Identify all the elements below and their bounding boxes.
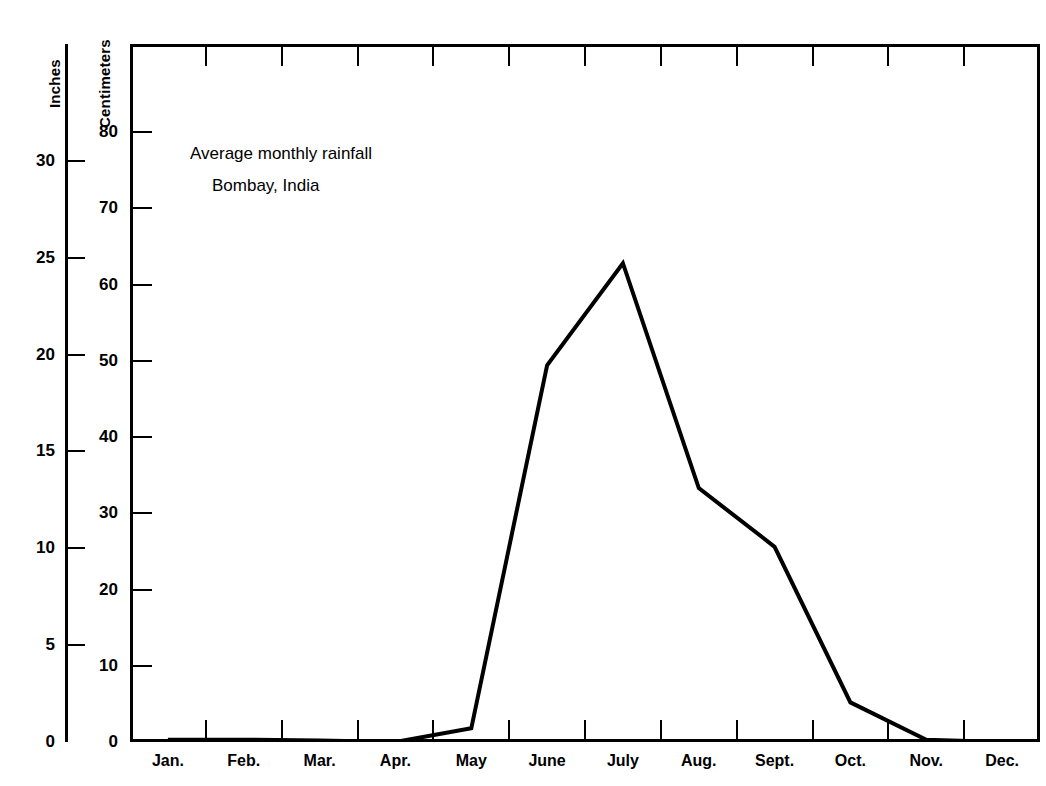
centimeters-axis-title: Centimeters (96, 39, 113, 128)
inches-tick (65, 644, 85, 646)
inches-axis-spine (65, 44, 68, 742)
month-label: Dec. (985, 752, 1019, 770)
month-label: Oct. (835, 752, 866, 770)
inches-tick (65, 450, 85, 452)
cm-tick-label: 60 (58, 276, 118, 293)
chart-canvas: Inches Centimeters 051015202530 01020304… (0, 0, 1046, 786)
inches-tick (65, 547, 85, 549)
cm-tick-label: 20 (58, 581, 118, 598)
month-label: Apr. (380, 752, 411, 770)
inches-tick-label: 20 (3, 346, 55, 363)
inches-tick (65, 160, 85, 162)
chart-title-line2: Bombay, India (190, 170, 372, 202)
cm-tick-label: 70 (58, 199, 118, 216)
cm-tick-label: 30 (58, 504, 118, 521)
chart-title-block: Average monthly rainfall Bombay, India (190, 138, 372, 203)
inches-tick-label: 0 (3, 733, 55, 750)
month-label: Aug. (681, 752, 717, 770)
month-label: May (456, 752, 487, 770)
month-label: Feb. (227, 752, 260, 770)
chart-title-line1: Average monthly rainfall (190, 144, 372, 163)
month-label: Nov. (910, 752, 943, 770)
month-label: Jan. (152, 752, 184, 770)
inches-tick-label: 5 (3, 636, 55, 653)
inches-tick-label: 15 (3, 442, 55, 459)
inches-tick (65, 257, 85, 259)
inches-tick-label: 10 (3, 539, 55, 556)
inches-tick-label: 25 (3, 249, 55, 266)
cm-tick-label: 40 (58, 428, 118, 445)
cm-tick-label: 80 (58, 123, 118, 140)
inches-tick-label: 30 (3, 152, 55, 169)
month-label: July (607, 752, 639, 770)
rainfall-line (168, 263, 1002, 742)
cm-tick-label: 50 (58, 352, 118, 369)
month-label: Mar. (304, 752, 336, 770)
cm-tick-label: 0 (58, 733, 118, 750)
inches-axis-title: Inches (46, 59, 63, 108)
month-label: June (528, 752, 565, 770)
cm-tick-label: 10 (58, 657, 118, 674)
month-label: Sept. (755, 752, 794, 770)
